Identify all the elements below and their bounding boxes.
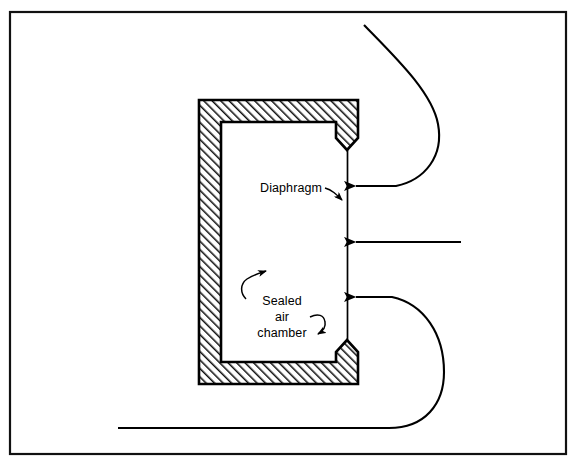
figure-root: Diaphragm Sealed air chamber <box>0 0 577 462</box>
sealed-label-line1: Sealed <box>262 294 302 308</box>
sealed-label-line2: air <box>275 310 289 324</box>
figure-border <box>10 12 566 454</box>
sealed-air-chamber-body <box>199 100 358 384</box>
diagram-canvas: Diaphragm Sealed air chamber <box>0 0 577 462</box>
airflow-arrow-top-curved <box>356 25 439 186</box>
sealed-chamber-leader-lower <box>310 315 325 334</box>
chamber-wall-hatched <box>199 100 358 384</box>
diaphragm-label: Diaphragm <box>260 181 322 195</box>
diaphragm-leader-arrow <box>325 188 342 200</box>
sealed-label-line3: chamber <box>257 326 306 340</box>
